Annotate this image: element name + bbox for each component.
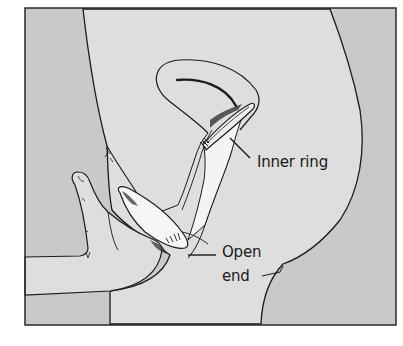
illustration-canvas — [0, 0, 403, 346]
female-condom-illustration: Inner ring Open end — [0, 0, 403, 346]
open-end-label-line1: Open — [222, 244, 261, 261]
open-end-label-line2: end — [222, 268, 250, 285]
inner-ring-label: Inner ring — [257, 154, 328, 171]
